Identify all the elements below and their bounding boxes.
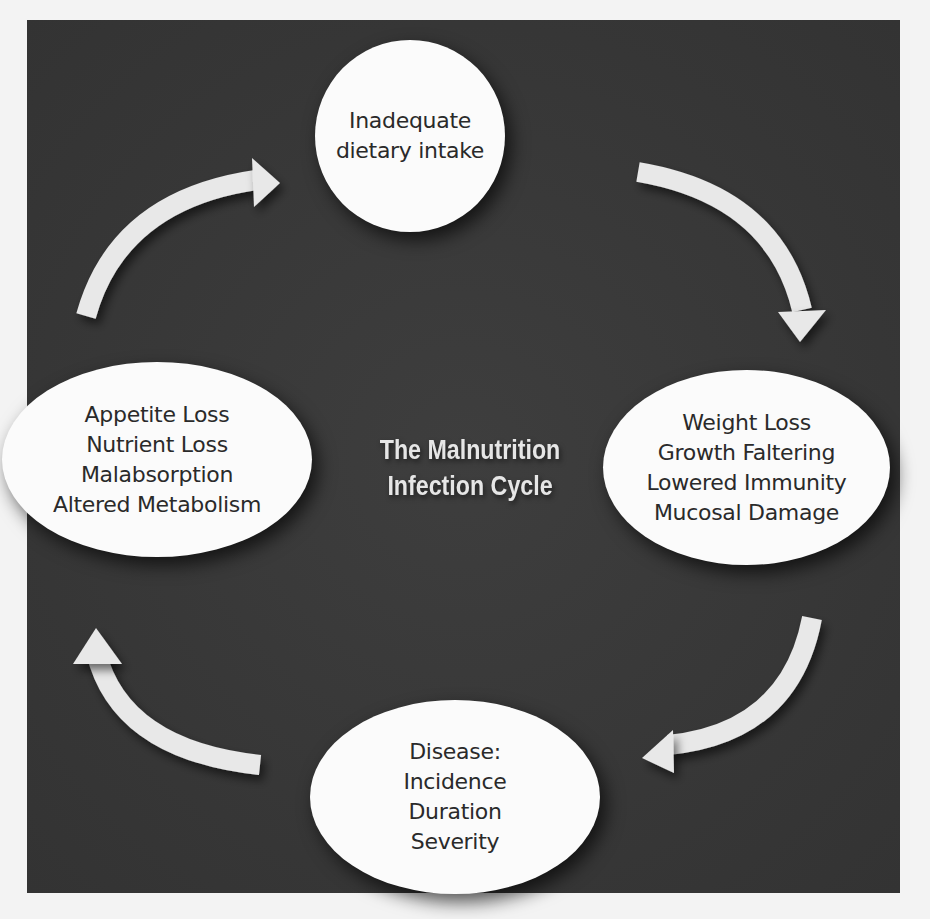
node-text-line: Malabsorption bbox=[81, 460, 233, 490]
node-inadequate-dietary-intake: Inadequate dietary intake bbox=[315, 40, 505, 232]
node-text-line: Appetite Loss bbox=[85, 400, 230, 430]
arrow-left-to-top-icon bbox=[86, 180, 256, 316]
node-appetite-loss-nutrient-loss: Appetite Loss Nutrient Loss Malabsorptio… bbox=[2, 362, 312, 557]
node-text-line: Disease: bbox=[409, 737, 501, 767]
arrowhead-top-icon bbox=[252, 158, 280, 207]
title-line-2: Infection Cycle bbox=[350, 468, 591, 504]
node-text-line: Incidence bbox=[403, 767, 506, 797]
node-text-line: Weight Loss bbox=[682, 408, 811, 438]
node-text-line: Duration bbox=[408, 797, 501, 827]
node-text-line: Growth Faltering bbox=[658, 438, 835, 468]
arrow-top-to-right-icon bbox=[638, 172, 802, 310]
arrow-right-to-bottom-icon bbox=[668, 618, 812, 745]
node-text-line: Altered Metabolism bbox=[53, 490, 261, 520]
node-text-line: Severity bbox=[411, 827, 499, 857]
arrowhead-left-icon bbox=[73, 628, 122, 664]
node-text-line: Inadequate bbox=[349, 106, 471, 136]
diagram-title: The Malnutrition Infection Cycle bbox=[350, 432, 591, 504]
node-disease: Disease: Incidence Duration Severity bbox=[310, 700, 600, 894]
node-weight-loss-growth-faltering: Weight Loss Growth Faltering Lowered Imm… bbox=[603, 370, 890, 565]
node-text-line: Nutrient Loss bbox=[86, 430, 228, 460]
title-line-1: The Malnutrition bbox=[350, 432, 591, 468]
arrowhead-right-icon bbox=[778, 310, 826, 342]
node-text-line: dietary intake bbox=[336, 136, 484, 166]
arrowhead-bottom-icon bbox=[642, 730, 674, 773]
arrow-bottom-to-left-icon bbox=[96, 652, 260, 765]
node-text-line: Mucosal Damage bbox=[654, 498, 839, 528]
node-text-line: Lowered Immunity bbox=[646, 468, 846, 498]
